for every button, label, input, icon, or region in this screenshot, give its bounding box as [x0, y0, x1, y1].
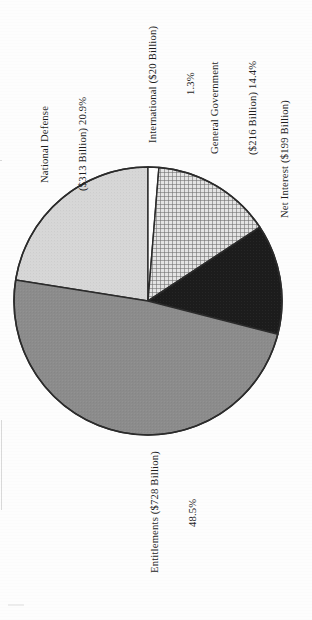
slice-label-national-defense: National Defense ($313 Billion) 20.9% — [14, 78, 114, 210]
scan-artifact-bottom-smudge — [8, 604, 24, 606]
slice-label-line2: 48.5% — [187, 430, 200, 595]
slice-label-line1: Net Interest ($199 Billion) — [279, 92, 292, 226]
scan-artifact-left-tick — [0, 160, 2, 161]
slice-label-net-interest: Net Interest ($199 Billion) 13.3% — [254, 92, 312, 226]
slice-label-line1: General Government — [209, 38, 222, 178]
slice-label-line1: International ($20 Billion) — [147, 8, 160, 160]
slice-label-line1: National Defense — [39, 78, 52, 210]
slice-label-entitlements: Entitlements ($728 Billion) 48.5% — [124, 430, 224, 595]
scan-artifact-left-rule — [1, 420, 2, 510]
slice-label-line1: Entitlements ($728 Billion) — [149, 430, 162, 595]
slice-label-line2: ($313 Billion) 20.9% — [77, 78, 90, 210]
chart-page: National Defense ($313 Billion) 20.9% In… — [0, 0, 312, 620]
